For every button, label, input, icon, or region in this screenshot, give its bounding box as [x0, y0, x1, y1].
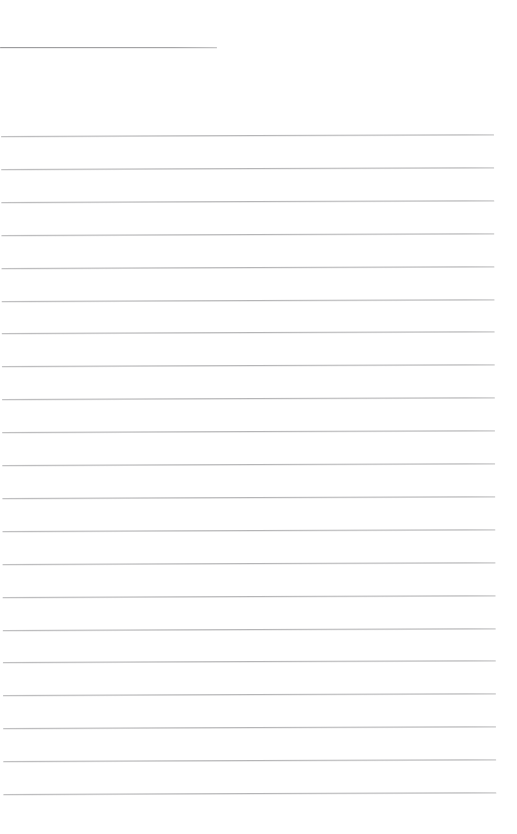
ruled-line: [3, 726, 496, 729]
ruled-line: [3, 693, 496, 696]
ruled-line: [2, 430, 495, 433]
ruled-line: [3, 562, 496, 565]
ruled-line: [3, 792, 496, 795]
ruled-line: [3, 660, 496, 663]
ruled-line: [3, 628, 496, 631]
ruled-line: [1, 200, 494, 203]
ruled-line: [2, 299, 495, 302]
ruled-line: [1, 134, 494, 137]
ruled-line: [2, 463, 495, 466]
ruled-line: [2, 529, 495, 532]
ruled-line: [3, 759, 496, 762]
ruled-line: [2, 397, 495, 400]
ruled-line: [3, 595, 496, 598]
ruled-lines-group: [0, 0, 517, 834]
ruled-line: [2, 331, 495, 334]
ruled-line: [1, 266, 494, 269]
ruled-line: [1, 233, 494, 236]
ruled-line: [1, 167, 494, 170]
notebook-page: [0, 0, 517, 834]
ruled-line: [2, 364, 495, 367]
ruled-line: [2, 496, 495, 499]
